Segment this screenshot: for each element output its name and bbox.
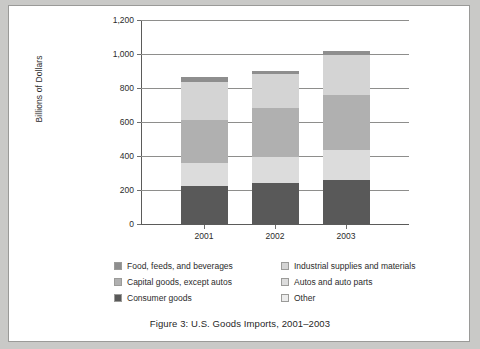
bar-segment: [323, 150, 370, 180]
legend: Food, feeds, and beveragesCapital goods,…: [9, 258, 471, 308]
x-tick-label-2003: 2003: [337, 231, 356, 241]
bar-segment: [252, 183, 299, 224]
y-tick-mark: [137, 20, 141, 21]
legend-item[interactable]: Autos and auto parts: [281, 274, 415, 289]
legend-label: Autos and auto parts: [294, 277, 372, 287]
legend-label: Consumer goods: [127, 293, 192, 303]
bar-segment: [181, 120, 228, 163]
x-tick-label-2001: 2001: [195, 231, 214, 241]
bar-segment: [181, 163, 228, 186]
x-tick-label-2002: 2002: [266, 231, 285, 241]
legend-label: Capital goods, except autos: [127, 277, 232, 287]
y-tick-label: 1,000: [113, 49, 134, 59]
legend-swatch-icon: [281, 278, 289, 286]
bar-2001[interactable]: [181, 77, 228, 224]
y-tick-mark: [137, 122, 141, 123]
figure-panel: Billions of Dollars 02004006008001,0001,…: [8, 5, 470, 342]
bar-segment: [181, 186, 228, 224]
legend-item[interactable]: Consumer goods: [114, 290, 233, 305]
y-tick-mark: [137, 54, 141, 55]
y-tick-label: 200: [120, 185, 134, 195]
chart-area: Billions of Dollars 02004006008001,0001,…: [9, 6, 471, 251]
bar-segment: [252, 157, 299, 183]
bar-segment: [252, 74, 299, 109]
bar-segment: [181, 82, 228, 120]
bar-2002[interactable]: [252, 71, 299, 224]
x-axis-line: [141, 224, 409, 225]
y-tick-mark: [137, 156, 141, 157]
y-tick-label: 600: [120, 117, 134, 127]
bar-segment: [323, 55, 370, 95]
legend-column-right: Industrial supplies and materialsAutos a…: [281, 258, 415, 306]
legend-swatch-icon: [114, 294, 122, 302]
legend-swatch-icon: [114, 262, 122, 270]
legend-swatch-icon: [114, 278, 122, 286]
plot-area: 02004006008001,0001,200 200120022003: [141, 20, 409, 224]
legend-swatch-icon: [281, 262, 289, 270]
y-axis-label: Billions of Dollars: [34, 34, 44, 144]
y-tick-mark: [137, 190, 141, 191]
y-tick-mark: [137, 88, 141, 89]
bar-segment: [252, 108, 299, 156]
bar-segment: [323, 95, 370, 150]
legend-label: Industrial supplies and materials: [294, 261, 415, 271]
y-tick-label: 0: [129, 219, 134, 229]
legend-item[interactable]: Other: [281, 290, 415, 305]
y-tick-label: 400: [120, 151, 134, 161]
legend-label: Food, feeds, and beverages: [127, 261, 233, 271]
page-background: Billions of Dollars 02004006008001,0001,…: [0, 0, 480, 349]
legend-item[interactable]: Capital goods, except autos: [114, 274, 233, 289]
legend-label: Other: [294, 293, 315, 303]
y-tick-label: 1,200: [113, 15, 134, 25]
legend-item[interactable]: Food, feeds, and beverages: [114, 258, 233, 273]
gridline: [141, 20, 409, 21]
bar-segment: [323, 180, 370, 224]
legend-swatch-icon: [281, 294, 289, 302]
legend-item[interactable]: Industrial supplies and materials: [281, 258, 415, 273]
figure-caption: Figure 3: U.S. Goods Imports, 2001–2003: [9, 318, 471, 329]
bar-2003[interactable]: [323, 51, 370, 224]
legend-column-left: Food, feeds, and beveragesCapital goods,…: [114, 258, 233, 306]
y-tick-label: 800: [120, 83, 134, 93]
